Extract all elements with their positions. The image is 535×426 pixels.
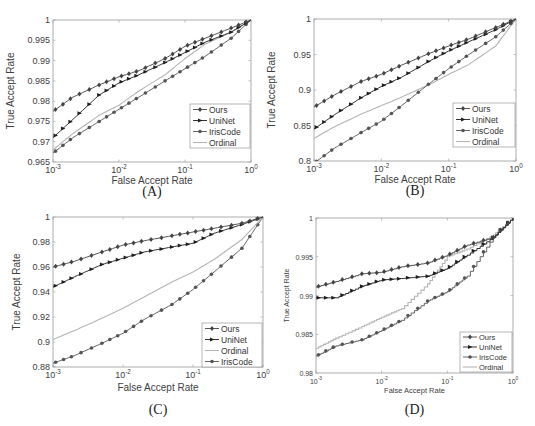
circle-marker-icon	[153, 85, 157, 89]
legend-label: Ordinal	[479, 363, 504, 372]
x-tick-label: 10-1	[185, 368, 201, 380]
x-tick-label: 100	[256, 368, 270, 380]
circle-marker-icon	[390, 112, 394, 116]
circle-marker-icon	[382, 327, 386, 331]
circle-marker-icon	[178, 70, 182, 74]
legend-label: UniNet	[221, 335, 248, 345]
legend-label: IrisCode	[221, 357, 253, 367]
legend-label: IrisCode	[472, 126, 504, 136]
y-tick-label: 0.99	[299, 293, 313, 300]
y-tick-label: 0.975	[27, 116, 50, 126]
circle-marker-icon	[171, 74, 175, 78]
x-tick-label: 10-1	[441, 162, 457, 174]
x-axis-label: False Accept Rate	[384, 386, 445, 395]
x-tick-label: 10-2	[374, 162, 390, 174]
circle-marker-icon	[170, 303, 174, 307]
panel-label: (B)	[406, 183, 425, 199]
circle-marker-icon	[248, 235, 252, 239]
x-tick-label: 100	[508, 376, 519, 385]
circle-marker-icon	[202, 279, 206, 283]
circle-marker-icon	[219, 264, 223, 268]
y-tick-label: 1	[45, 15, 50, 25]
circle-marker-icon	[61, 144, 65, 148]
circle-marker-icon	[416, 306, 420, 310]
y-axis-label: True Accept Rate	[5, 52, 16, 129]
circle-marker-icon	[427, 83, 431, 87]
y-axis-label: True Accept Rate	[11, 253, 22, 330]
circle-marker-icon	[457, 60, 461, 64]
circle-marker-icon	[502, 28, 506, 32]
circle-marker-icon	[79, 351, 83, 355]
y-tick-label: 0.94	[32, 287, 50, 297]
circle-marker-icon	[448, 288, 452, 292]
circle-marker-icon	[78, 132, 82, 136]
y-tick-label: 0.995	[295, 254, 313, 261]
legend-label: Ordinal	[209, 138, 237, 148]
circle-marker-icon	[186, 291, 190, 295]
x-tick-label: 10-3	[45, 368, 61, 380]
circle-marker-icon	[474, 48, 478, 52]
legend-label: Ours	[472, 104, 490, 114]
circle-marker-icon	[463, 276, 467, 280]
figure-canvas: 0.9650.970.9750.980.9850.990.995110-310-…	[0, 0, 535, 426]
circle-marker-icon	[100, 341, 104, 345]
circle-marker-icon	[90, 346, 94, 350]
circle-marker-icon	[374, 122, 378, 126]
circle-marker-icon	[229, 36, 233, 40]
circle-marker-icon	[108, 338, 112, 342]
circle-marker-icon	[62, 358, 66, 362]
circle-marker-icon	[127, 101, 131, 105]
circle-marker-icon	[472, 265, 476, 269]
y-tick-label: 0.99	[32, 56, 50, 66]
circle-marker-icon	[194, 286, 198, 290]
circle-marker-icon	[406, 314, 410, 318]
circle-marker-icon	[397, 106, 401, 110]
x-tick-label: 10-1	[441, 376, 453, 385]
y-tick-label: 0.985	[27, 76, 50, 86]
circle-marker-icon	[120, 106, 124, 110]
circle-marker-icon	[468, 355, 472, 359]
circle-marker-icon	[331, 345, 335, 349]
circle-marker-icon	[210, 272, 214, 276]
x-tick-label: 10-3	[45, 163, 61, 175]
chart-panel-d: 0.980.9850.990.995110-310-210-1100False …	[283, 215, 519, 418]
y-tick-label: 0.9	[298, 85, 311, 95]
circle-marker-icon	[407, 98, 411, 102]
legend-label: Ordinal	[472, 137, 500, 147]
circle-marker-icon	[105, 115, 109, 119]
circle-marker-icon	[322, 154, 326, 158]
y-tick-label: 0.985	[295, 331, 313, 338]
legend-label: IrisCode	[209, 127, 241, 137]
circle-marker-icon	[324, 349, 328, 353]
circle-marker-icon	[54, 361, 58, 365]
y-tick-label: 0.995	[27, 35, 50, 45]
legend-label: Ours	[221, 324, 239, 334]
y-tick-label: 0.98	[299, 370, 313, 377]
circle-marker-icon	[367, 127, 371, 131]
circle-marker-icon	[237, 30, 241, 34]
circle-marker-icon	[178, 297, 182, 301]
circle-marker-icon	[97, 120, 101, 124]
circle-marker-icon	[461, 129, 465, 133]
circle-marker-icon	[149, 314, 153, 318]
circle-marker-icon	[186, 65, 190, 69]
panel-label: (D)	[405, 402, 425, 418]
circle-marker-icon	[124, 330, 128, 334]
circle-marker-icon	[360, 338, 364, 342]
legend: OursUniNetIrisCodeOrdinal	[453, 103, 515, 147]
circle-marker-icon	[210, 360, 214, 364]
circle-marker-icon	[359, 131, 363, 135]
chart-panel-b: 0.80.850.90.95110-310-210-1100False Acce…	[266, 14, 523, 199]
legend: OursUniNetOrdinalIrisCode	[202, 323, 262, 367]
circle-marker-icon	[390, 324, 394, 328]
circle-marker-icon	[482, 250, 486, 254]
circle-marker-icon	[144, 91, 148, 95]
legend-label: Ours	[209, 105, 227, 115]
circle-marker-icon	[382, 117, 386, 121]
circle-marker-icon	[69, 138, 73, 142]
circle-marker-icon	[201, 56, 205, 60]
legend: OursUniNetIrisCodeOrdinal	[460, 332, 512, 372]
panel-label: (A)	[142, 184, 162, 200]
circle-marker-icon	[116, 334, 120, 338]
circle-marker-icon	[193, 61, 197, 65]
